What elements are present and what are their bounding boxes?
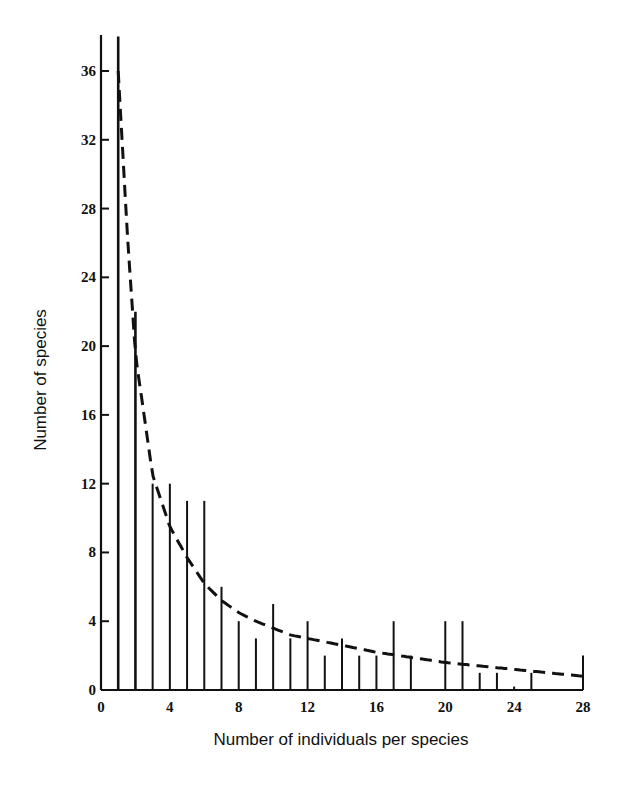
x-axis-title: Number of individuals per species (213, 730, 468, 749)
chart: 04812162024283236 0481216202428 Number o… (0, 0, 629, 790)
y-tick-label: 36 (81, 63, 97, 79)
y-tick-label: 24 (81, 269, 97, 285)
y-tick-label: 8 (89, 544, 97, 560)
x-tick-label: 16 (369, 699, 385, 715)
x-tick-label: 0 (97, 699, 105, 715)
x-tick-label: 12 (300, 699, 315, 715)
x-axis: 0481216202428 (97, 690, 590, 715)
y-tick-label: 4 (89, 613, 97, 629)
y-tick-label: 0 (89, 682, 97, 698)
y-axis-title: Number of species (31, 309, 50, 451)
bars (118, 37, 583, 690)
x-tick-label: 8 (235, 699, 243, 715)
y-tick-label: 28 (81, 201, 96, 217)
x-tick-label: 4 (166, 699, 174, 715)
y-axis: 04812162024283236 (81, 35, 109, 698)
x-tick-label: 28 (576, 699, 591, 715)
y-tick-label: 16 (81, 407, 97, 423)
y-tick-label: 32 (81, 132, 96, 148)
y-tick-label: 12 (81, 476, 96, 492)
y-tick-label: 20 (81, 338, 96, 354)
x-tick-label: 20 (438, 699, 453, 715)
x-tick-label: 24 (507, 699, 523, 715)
